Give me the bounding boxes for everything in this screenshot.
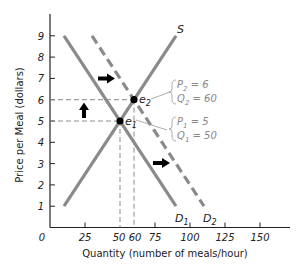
y-axis-title: Price per Meal (dollars) xyxy=(14,67,25,183)
arrow-right-icon xyxy=(153,158,170,168)
equilibrium-point-e2 xyxy=(130,96,137,103)
supply-label: S xyxy=(177,23,184,36)
chart: 1 2 3 4 5 6 7 8 9 0 25 50 60 75 100 125 … xyxy=(0,0,299,271)
d2-label: D2 xyxy=(203,212,217,227)
svg-text:1: 1 xyxy=(38,201,44,212)
svg-text:3: 3 xyxy=(38,159,44,170)
svg-text:4: 4 xyxy=(38,137,44,148)
svg-text:2: 2 xyxy=(38,180,44,191)
svg-text:150: 150 xyxy=(250,232,269,243)
svg-text:6: 6 xyxy=(38,95,44,106)
d1-label: D1 xyxy=(175,212,189,227)
x-ticks xyxy=(85,223,260,228)
svg-text:50: 50 xyxy=(113,232,126,243)
svg-text:P2 = 6: P2 = 6 xyxy=(177,79,209,93)
svg-text:7: 7 xyxy=(38,73,45,84)
svg-text:8: 8 xyxy=(38,52,44,63)
svg-text:100: 100 xyxy=(180,232,199,243)
svg-text:5: 5 xyxy=(38,116,44,127)
arrow-right-icon xyxy=(98,74,115,84)
svg-text:Q1 = 50: Q1 = 50 xyxy=(177,130,217,144)
svg-text:Q2 = 60: Q2 = 60 xyxy=(177,93,217,107)
svg-text:60: 60 xyxy=(129,232,142,243)
e1-label: e1 xyxy=(125,115,137,130)
svg-text:125: 125 xyxy=(215,232,234,243)
svg-text:25: 25 xyxy=(79,232,92,243)
svg-text:0: 0 xyxy=(39,232,45,243)
arrow-up-icon xyxy=(79,103,89,119)
e2-label: e2 xyxy=(139,93,151,108)
svg-text:9: 9 xyxy=(38,31,44,42)
svg-text:75: 75 xyxy=(149,232,162,243)
y-tick-labels: 1 2 3 4 5 6 7 8 9 xyxy=(38,31,45,213)
x-tick-labels: 0 25 50 60 75 100 125 150 xyxy=(39,232,270,243)
equilibrium-annotations: P2 = 6 Q2 = 60 P1 = 5 Q1 = 50 xyxy=(177,79,217,144)
x-axis-title: Quantity (number of meals/hour) xyxy=(82,248,248,259)
equilibrium-point-e1 xyxy=(116,117,123,124)
svg-text:P1 = 5: P1 = 5 xyxy=(177,116,209,130)
